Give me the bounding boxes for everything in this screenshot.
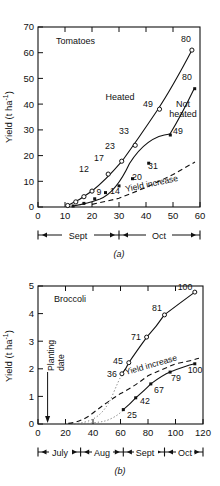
pt-label-a-heated-23: 23: [105, 141, 115, 151]
pt-label-b-lower-67: 67: [154, 385, 164, 395]
series-label-heated-a: Heated: [105, 92, 134, 102]
pt-label-b-lower-79: 79: [171, 373, 181, 383]
pt-label-a-notheated-31: 31: [148, 161, 158, 171]
pt-label-a-notheated-49: 49: [173, 126, 183, 136]
y-axis-title-b-main: Yield (t ha: [3, 339, 14, 382]
x-tick-label-b-100: 100: [168, 427, 184, 438]
x-tick-label-a-0: 0: [35, 210, 40, 221]
month-label-a-sept: Sept: [69, 231, 88, 241]
y-tick-label-a-0: 0: [29, 201, 34, 212]
pt-label-a-heated-49: 49: [143, 99, 153, 109]
y-tick-label-a-20: 20: [23, 150, 34, 161]
series-label-heated2-a: heated: [169, 109, 197, 119]
broccoli-chart-svg: 0 1 2 3 4 5 Yield (t ha-1): [0, 276, 220, 486]
planting-label-b: Planting: [46, 340, 56, 371]
cut-off-header-text: [66, 0, 216, 4]
month-axis-b: July Aug Sept Oct: [38, 445, 203, 459]
x-tick-label-b-120: 120: [195, 427, 211, 438]
series-label-not-a: Not: [176, 99, 191, 109]
panel-caption-a: (a): [114, 249, 125, 259]
panel-caption-b: (b): [115, 466, 126, 476]
y-tick-label-a-10: 10: [23, 176, 34, 187]
month-label-b-sept: Sept: [136, 448, 155, 458]
month-label-a-oct: Oct: [152, 231, 167, 241]
y-tick-label-b-1: 1: [29, 391, 34, 402]
pt-label-b-upper-36: 36: [107, 369, 117, 379]
x-tick-label-a-30: 30: [114, 210, 125, 221]
month-label-b-oct: Oct: [178, 448, 193, 458]
crop-title-a: Tomatoes: [56, 36, 96, 46]
pt-label-b-upper-71: 71: [131, 332, 141, 342]
chart-panel-a: 0 10 20 30 40 50 60 70 Yield (t ha-1): [0, 14, 220, 264]
y-axis-title-b: Yield (t ha-1): [2, 330, 14, 382]
y-tick-label-a-50: 50: [23, 73, 34, 84]
x-tick-label-b-80: 80: [143, 427, 154, 438]
date-label-b: date: [56, 354, 66, 371]
chart-panel-b: 0 1 2 3 4 5 Yield (t ha-1): [0, 276, 220, 486]
y-tick-label-a-40: 40: [23, 99, 34, 110]
x-tick-label-b-20: 20: [60, 427, 71, 438]
y-axis-title-a: Yield (t ha-1): [2, 91, 14, 143]
pt-label-a-notheated-80: 80: [182, 72, 192, 82]
svg-text:Yield (t ha-1): Yield (t ha-1): [2, 91, 14, 143]
tomatoes-chart-svg: 0 10 20 30 40 50 60 70 Yield (t ha-1): [0, 14, 220, 264]
point-labels-b: 36 45 71 81 100 25 42 67 79 100: [107, 282, 202, 420]
x-tick-label-a-20: 20: [87, 210, 98, 221]
pt-label-b-upper-100: 100: [178, 282, 193, 292]
dotted-trend-lower-b: [74, 410, 124, 424]
y-axis-title-b-close: ): [3, 330, 14, 333]
y-tick-label-b-5: 5: [29, 280, 34, 291]
y-axis-a: 0 10 20 30 40 50 60 70: [23, 21, 43, 212]
pt-label-b-upper-45: 45: [113, 356, 123, 366]
planting-date-annotation-b: Planting date: [45, 340, 66, 423]
y-tick-label-a-30: 30: [23, 124, 34, 135]
pt-label-b-lower-42: 42: [140, 396, 150, 406]
y-tick-label-a-60: 60: [23, 47, 34, 58]
x-tick-label-a-50: 50: [168, 210, 179, 221]
figure-container: 0 10 20 30 40 50 60 70 Yield (t ha-1): [0, 0, 220, 486]
svg-text:Yield (t ha-1): Yield (t ha-1): [2, 330, 14, 382]
pt-label-b-lower-25: 25: [127, 410, 137, 420]
y-tick-label-a-70: 70: [23, 21, 34, 32]
pt-label-a-heated-17: 17: [94, 153, 104, 163]
y-axis-title-a-main: Yield (t ha: [3, 100, 14, 143]
crop-title-b: Broccoli: [54, 294, 86, 304]
month-label-b-july: July: [52, 448, 69, 458]
pt-label-a-heated-80: 80: [181, 34, 191, 44]
pt-label-a-heated-12: 12: [79, 164, 89, 174]
pt-label-a-notheated-14: 14: [110, 186, 120, 196]
pt-label-b-upper-81: 81: [152, 303, 162, 313]
y-tick-label-b-3: 3: [29, 336, 34, 347]
pt-label-a-heated-33: 33: [119, 126, 129, 136]
y-tick-label-b-2: 2: [29, 363, 34, 374]
x-tick-label-b-40: 40: [88, 427, 99, 438]
y-tick-label-b-4: 4: [29, 308, 34, 319]
x-tick-label-a-60: 60: [195, 210, 206, 221]
y-axis-b: 0 1 2 3 4 5: [29, 280, 43, 429]
month-label-b-aug: Aug: [94, 448, 110, 458]
x-tick-label-a-10: 10: [60, 210, 71, 221]
y-tick-label-b-0: 0: [29, 418, 34, 429]
x-tick-label-b-60: 60: [115, 427, 126, 438]
x-tick-label-a-40: 40: [141, 210, 152, 221]
month-axis-a: Sept Oct: [38, 228, 200, 242]
x-axis-a: 0 10 20 30 40 50 60: [35, 27, 205, 221]
x-tick-label-b-0: 0: [35, 427, 40, 438]
y-axis-title-a-close: ): [3, 91, 14, 94]
pt-label-a-notheated-9: 9: [97, 187, 102, 197]
pt-label-b-lower-100: 100: [188, 365, 203, 375]
